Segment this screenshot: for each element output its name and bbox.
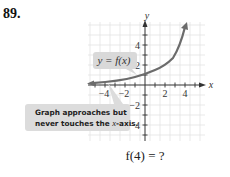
y-axis-arrow-icon <box>143 20 148 27</box>
svg-text:Graph approaches but: Graph approaches but <box>35 108 127 117</box>
svg-text:4: 4 <box>183 88 188 99</box>
svg-text:−2: −2 <box>119 88 130 99</box>
curve-right-arrow-icon <box>181 22 188 30</box>
y-axis-label: y <box>144 10 150 21</box>
svg-text:−2: −2 <box>129 100 140 111</box>
x-axis-arrow-icon <box>199 83 206 88</box>
svg-text:2: 2 <box>163 88 168 99</box>
svg-text:4: 4 <box>135 40 140 51</box>
question-text: f(4) = ? <box>0 148 230 164</box>
svg-text:−4: −4 <box>99 88 110 99</box>
svg-text:y = f(x): y = f(x) <box>96 54 130 67</box>
svg-text:never touches the x-axis.: never touches the x-axis. <box>35 118 139 128</box>
x-axis-label: x <box>208 79 214 90</box>
